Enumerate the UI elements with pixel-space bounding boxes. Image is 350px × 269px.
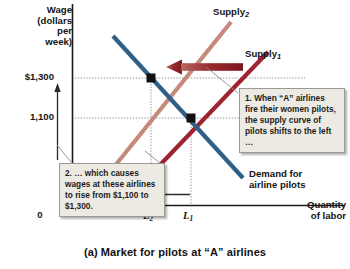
curve-label-supply1-subscript: 1 [277, 52, 281, 61]
curve-label-supply1: Supply1 [245, 48, 281, 61]
curve-label-supply2-subscript: 2 [245, 10, 249, 19]
curve-label-supply1-text: Supply [245, 48, 277, 59]
x-tick-label-l1: L1 [183, 210, 193, 223]
callout-supply-shift: 1. When “A” airlines fire their women pi… [239, 88, 345, 153]
figure-caption: (a) Market for pilots at “A” airlines [0, 246, 350, 258]
leader-callout1 [206, 67, 238, 93]
leader-callout2-up [57, 145, 72, 163]
curve-label-supply2-text: Supply [213, 6, 245, 17]
equilibrium-point-new [147, 74, 156, 83]
curve-demand [113, 36, 243, 178]
x-axis-title: Quantity of labor [276, 200, 346, 221]
origin-label: 0 [34, 210, 46, 221]
x-tick-l1-subscript: 1 [189, 214, 193, 223]
callout-wage-rise: 2. … which causes wages at these airline… [59, 163, 165, 217]
curve-label-supply2: Supply2 [213, 6, 249, 19]
y-tick-label-1100: 1,100 [2, 112, 54, 123]
equilibrium-point-original [187, 114, 196, 123]
figure-market-for-pilots: Wage (dollars per week) Quantity of labo… [0, 0, 350, 269]
y-tick-label-1300: $1,300 [2, 72, 54, 83]
supply-shift-arrow [166, 60, 243, 75]
curve-label-demand: Demand for airline pilots [249, 168, 306, 190]
y-axis-title: Wage (dollars per week) [6, 5, 72, 48]
